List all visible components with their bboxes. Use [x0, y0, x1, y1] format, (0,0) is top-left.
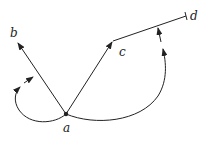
segment-c-d — [113, 16, 186, 41]
point-a — [64, 112, 68, 116]
diagram-canvas: a b c d — [0, 0, 209, 141]
vector-a-b — [18, 43, 66, 114]
label-c: c — [119, 45, 126, 59]
angle-arc-a-b — [15, 87, 66, 122]
label-b: b — [10, 26, 18, 40]
angle-arc-a-b-arrow2 — [24, 77, 33, 83]
angle-arc-a-cd-arrow2 — [158, 28, 161, 42]
angle-arc-a-cd — [66, 49, 165, 120]
label-a: a — [63, 121, 70, 135]
vector-a-c — [66, 42, 112, 114]
label-d: d — [190, 9, 198, 23]
